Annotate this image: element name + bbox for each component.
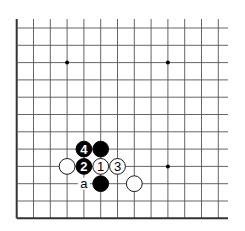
move-number-label: 1: [97, 159, 104, 174]
grid-lines: [17, 19, 228, 218]
black-stone: [93, 141, 109, 157]
white-stone: [59, 159, 75, 175]
black-stone-icon: [93, 176, 109, 192]
star-point-icon: [166, 164, 170, 168]
point-marker-label: a: [80, 176, 88, 191]
white-stone-1: 1: [93, 159, 109, 175]
black-stone-2: 2: [76, 159, 92, 175]
white-stone-icon: [126, 176, 142, 192]
star-point-icon: [166, 61, 170, 65]
white-stone: [126, 176, 142, 192]
white-stone-3: 3: [110, 159, 126, 175]
black-stone-icon: [93, 141, 109, 157]
move-number-label: 3: [114, 159, 121, 174]
black-stone: [93, 176, 109, 192]
markers: a: [78, 176, 90, 191]
star-point-icon: [65, 61, 69, 65]
white-stone-icon: [59, 159, 75, 175]
move-number-label: 2: [80, 159, 87, 174]
black-stone-4: 4: [76, 141, 92, 157]
move-number-label: 4: [80, 142, 88, 157]
go-board: 4213 a: [0, 0, 245, 231]
